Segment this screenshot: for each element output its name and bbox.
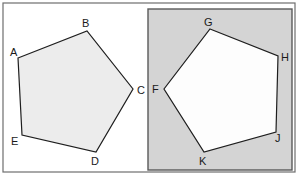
vertex-label-k: K [199,155,207,167]
figure: ABCDE GHJKF [0,0,298,176]
vertex-label-h: H [281,51,289,63]
vertex-label-e: E [11,135,18,147]
vertex-label-a: A [10,46,18,58]
vertex-label-f: F [152,83,159,95]
pentagon-abcde [18,31,133,152]
vertex-label-b: B [82,17,89,29]
vertex-label-g: G [204,16,213,28]
vertex-label-j: J [275,132,281,144]
vertex-label-d: D [91,155,99,167]
vertex-label-c: C [137,84,145,96]
